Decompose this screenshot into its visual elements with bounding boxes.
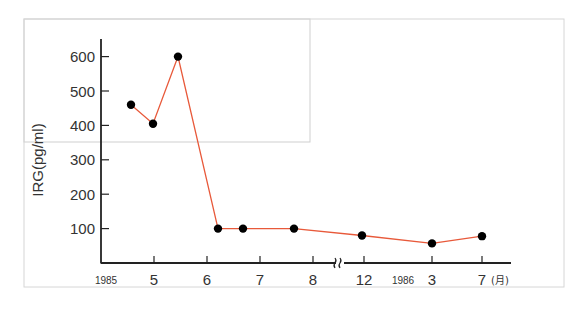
year-label-1985: 1985 [95, 275, 118, 286]
x-tick-label: 6 [203, 271, 211, 288]
x-tick-label: 7 [256, 271, 264, 288]
y-axis-title: IRG(pg/ml) [29, 123, 46, 196]
data-point-marker [428, 239, 436, 247]
data-point-marker [358, 231, 366, 239]
x-tick-label: 5 [150, 271, 158, 288]
x-tick-label: 7 [478, 271, 486, 288]
data-point-marker [290, 224, 298, 232]
axes [24, 19, 564, 287]
data-line [131, 57, 482, 244]
x-tick-label: 3 [428, 271, 436, 288]
x-tick-label: 8 [309, 271, 317, 288]
year-label-1986: 1986 [392, 275, 415, 286]
y-tick-label: 200 [70, 186, 95, 203]
data-point-marker [239, 224, 247, 232]
data-point-marker [149, 119, 157, 127]
data-series [127, 52, 486, 247]
y-tick-label: 400 [70, 117, 95, 134]
y-tick-label: 100 [70, 220, 95, 237]
panel-border [24, 19, 564, 287]
x-tick-label: 12 [356, 271, 373, 288]
chart-outer-frame [25, 20, 311, 143]
line-chart: 100200300400500600IRG(pg/ml)567812371985… [0, 0, 588, 325]
data-point-marker [127, 101, 135, 109]
axis-break-icon [334, 258, 336, 268]
data-point-marker [478, 232, 486, 240]
y-tick-label: 300 [70, 151, 95, 168]
y-tick-label: 500 [70, 83, 95, 100]
y-tick-label: 600 [70, 48, 95, 65]
data-point-marker [174, 52, 182, 60]
axis-break-icon [339, 258, 341, 268]
x-unit-label: (月) [491, 275, 509, 286]
data-point-marker [214, 224, 222, 232]
